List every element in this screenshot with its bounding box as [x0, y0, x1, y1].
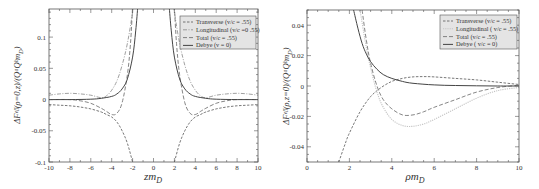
- legend-entry: Debye (v = 0): [196, 41, 231, 49]
- x-tick-label: -4: [109, 164, 115, 172]
- legend-entry: Debye ( v/c = 0): [456, 40, 497, 48]
- y-tick-label: -0.1: [35, 159, 47, 167]
- x-tick-label: 4: [390, 164, 394, 172]
- legend-entry: Longitudinal ( v/c = .55): [456, 25, 518, 33]
- x-tick-label: -6: [88, 164, 94, 172]
- left-legend: Transverse (v/c = .55)Longitudinal (v/c …: [180, 16, 260, 49]
- y-tick-label: -0.05: [31, 127, 46, 135]
- left-x-axis-title: zmD: [143, 170, 162, 185]
- series-line-total: [49, 6, 133, 115]
- x-tick-label: 8: [235, 164, 239, 172]
- y-tick-label: -0.04: [289, 143, 304, 151]
- x-tick-label: 2: [173, 164, 177, 172]
- series-line-transverse: [174, 105, 258, 163]
- x-tick-label: 6: [214, 164, 218, 172]
- series-line-transverse: [339, 77, 519, 162]
- x-tick-label: -8: [67, 164, 73, 172]
- legend-entry: Total (v/c = .55): [456, 33, 497, 41]
- legend-entry: Longitudinal (v/c =0 .55): [196, 26, 260, 34]
- right-legend: Transverse (v/c = .55)Longitudinal ( v/c…: [440, 15, 518, 49]
- series-line-longitudinal: [49, 0, 138, 98]
- series-line-debye: [49, 6, 138, 100]
- right-x-axis-title: ρmD: [404, 170, 424, 185]
- y-tick-label: 0: [301, 83, 305, 91]
- chart-figure: -10-8-6-4-20246810-0.1-0.0500.050.1 zmD …: [0, 0, 539, 189]
- legend-entry: Transverse (v/c = .55): [456, 17, 511, 25]
- y-tick-label: 0.04: [292, 22, 305, 30]
- y-tick-label: 0: [43, 96, 47, 104]
- y-tick-label: 0.02: [292, 52, 305, 60]
- y-tick-label: 0.1: [37, 34, 46, 42]
- x-tick-label: 2: [348, 164, 352, 172]
- x-tick-label: 8: [475, 164, 479, 172]
- right-plot: 0246810-0.04-0.0200.020.04 ρmD ΔFᵉᶠᶠ(ρ,z…: [281, 10, 523, 185]
- x-tick-label: 0: [305, 164, 309, 172]
- left-plot: -10-8-6-4-20246810-0.1-0.0500.050.1 zmD …: [12, 0, 262, 185]
- legend-entry: Transverse (v/c = .55): [196, 18, 251, 26]
- y-tick-label: 0.05: [34, 65, 47, 73]
- x-tick-label: 10: [516, 164, 524, 172]
- y-tick-label: -0.02: [289, 113, 304, 121]
- left-y-axis-title: ΔFᵉᶠᶠ(ρ=0,z)/(QᵃQᵇmD): [12, 46, 24, 125]
- left-axis-tick-labels: -10-8-6-4-20246810-0.1-0.0500.050.1: [31, 34, 262, 172]
- series-line-transverse: [49, 105, 133, 163]
- x-tick-label: 4: [194, 164, 198, 172]
- right-y-axis-title: ΔFᵉᶠᶠ(ρ,z=0)/(QᵃQᵇmD): [281, 47, 293, 126]
- x-tick-label: -2: [130, 164, 136, 172]
- x-tick-label: 10: [255, 164, 263, 172]
- legend-entry: Total (v/c = .55): [196, 34, 237, 42]
- x-tick-label: 6: [432, 164, 436, 172]
